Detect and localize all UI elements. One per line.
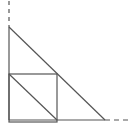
square-diagonal (9, 74, 57, 120)
geometry-diagram (0, 0, 136, 127)
